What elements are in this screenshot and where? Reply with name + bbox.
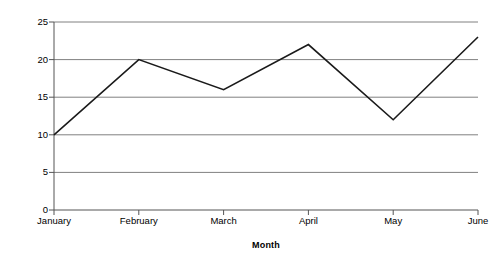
x-axis-tick-label: March — [210, 216, 236, 226]
x-axis-tick-label: February — [120, 216, 158, 226]
x-axis-tick-label: January — [37, 216, 71, 226]
x-axis-tick-labels: JanuaryFebruaryMarchAprilMayJune — [0, 0, 502, 264]
line-chart: Price 0510152025 JanuaryFebruaryMarchApr… — [0, 0, 502, 264]
x-axis-tick-label: April — [299, 216, 318, 226]
x-axis-tick-label: May — [384, 216, 402, 226]
x-axis-title: Month — [54, 240, 478, 250]
x-axis-title-label: Month — [252, 240, 280, 250]
x-axis-tick-label: June — [468, 216, 489, 226]
